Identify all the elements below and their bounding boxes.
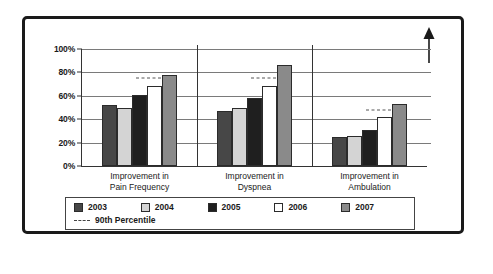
legend-item-label: 2003 — [88, 202, 107, 212]
y-axis-tick-label: 0% — [63, 161, 75, 171]
x-axis-category-label: Improvement in Pain Frequency — [82, 171, 197, 194]
chart-figure: 0%20%40%60%80%100%Improvement in Pain Fr… — [22, 16, 464, 234]
bar-2003[interactable] — [102, 105, 117, 166]
bar-2007[interactable] — [162, 75, 177, 166]
y-axis-tick-label: 40% — [59, 114, 75, 124]
bar-2004[interactable] — [117, 108, 132, 167]
x-axis-category-label: Improvement in Dyspnea — [197, 171, 312, 194]
y-axis-tick-label: 100% — [54, 44, 75, 54]
legend-item-label: 2004 — [155, 202, 174, 212]
legend-item-2006[interactable]: 2006 — [274, 202, 341, 212]
legend-item-2003[interactable]: 2003 — [74, 202, 141, 212]
bar-2005[interactable] — [247, 98, 262, 166]
bar-group — [312, 49, 427, 166]
legend-swatch-icon — [274, 203, 283, 212]
dashed-line-swatch-icon — [74, 220, 90, 221]
bar-2006[interactable] — [147, 86, 162, 166]
legend-item-label: 2006 — [288, 202, 307, 212]
legend-swatch-icon — [74, 203, 83, 212]
legend-series-row: 20032004200520062007 — [74, 202, 408, 212]
bar-group — [197, 49, 312, 166]
bar-group — [82, 49, 197, 166]
bar-2007[interactable] — [277, 65, 292, 166]
bar-2006[interactable] — [262, 86, 277, 166]
legend-item-2005[interactable]: 2005 — [208, 202, 275, 212]
legend-item-2007[interactable]: 2007 — [341, 202, 408, 212]
legend-reference-row: 90th Percentile — [74, 215, 408, 225]
legend-item-label: 2005 — [222, 202, 241, 212]
legend-swatch-icon — [341, 203, 350, 212]
legend-reference-label: 90th Percentile — [95, 215, 155, 225]
bar-2007[interactable] — [392, 104, 407, 166]
legend-item-2004[interactable]: 2004 — [141, 202, 208, 212]
bar-2003[interactable] — [332, 137, 347, 166]
bar-2006[interactable] — [377, 117, 392, 166]
x-axis-category-label: Improvement in Ambulation — [312, 171, 427, 194]
legend-item-label: 2007 — [355, 202, 374, 212]
bar-2005[interactable] — [362, 130, 377, 166]
bar-2004[interactable] — [347, 136, 362, 166]
bar-2005[interactable] — [132, 95, 147, 166]
bar-2004[interactable] — [232, 108, 247, 167]
legend-swatch-icon — [208, 203, 217, 212]
y-axis-tick-label: 20% — [59, 138, 75, 148]
chart-legend: 20032004200520062007 90th Percentile — [65, 197, 415, 230]
plot-area: 0%20%40%60%80%100%Improvement in Pain Fr… — [81, 49, 427, 167]
y-axis-tick-label: 80% — [59, 67, 75, 77]
y-axis-tick-label: 60% — [59, 91, 75, 101]
legend-swatch-icon — [141, 203, 150, 212]
bar-2003[interactable] — [217, 111, 232, 166]
